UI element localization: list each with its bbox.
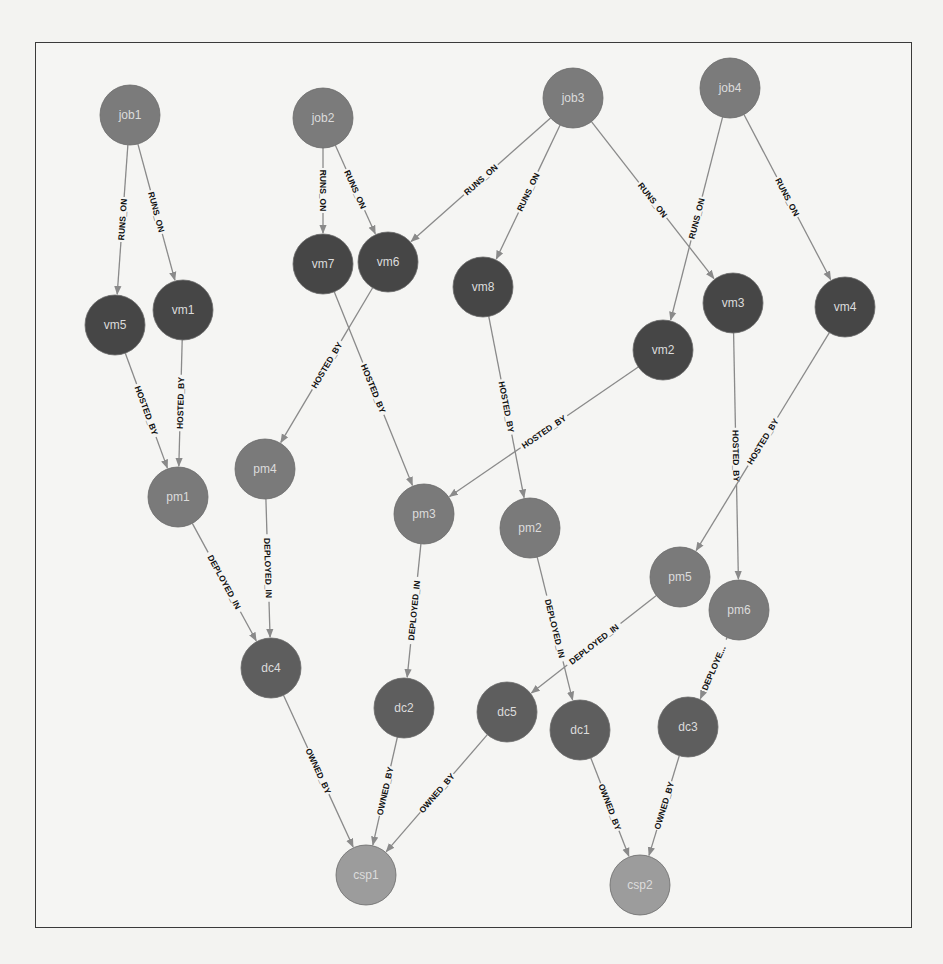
- node-label: vm5: [104, 318, 127, 332]
- edge-job4-vm4[interactable]: RUNS_ON: [744, 115, 831, 280]
- edge-line: [284, 695, 308, 748]
- node-label: dc5: [497, 705, 517, 719]
- edge-line: [672, 756, 680, 782]
- node-label: pm6: [727, 603, 751, 617]
- edge-vm6-pm4[interactable]: HOSTED_BY: [281, 288, 373, 443]
- edge-line: [489, 316, 501, 379]
- arrow-icon: [156, 437, 167, 468]
- node-label: dc2: [394, 701, 414, 715]
- edge-vm4-pm5[interactable]: HOSTED_BY: [696, 333, 829, 551]
- node-label: vm1: [172, 303, 195, 317]
- node-label: pm1: [166, 490, 190, 504]
- node-pm1[interactable]: pm1: [148, 467, 208, 527]
- node-vm4[interactable]: vm4: [815, 277, 875, 337]
- node-csp1[interactable]: csp1: [336, 845, 396, 905]
- arrow-icon: [450, 448, 521, 497]
- node-vm1[interactable]: vm1: [153, 280, 213, 340]
- edge-label: RUNS_ON: [116, 198, 129, 240]
- node-pm2[interactable]: pm2: [500, 498, 560, 558]
- edge-vm1-pm1[interactable]: HOSTED_BY: [175, 340, 186, 466]
- edge-dc1-csp2[interactable]: OWNED_BY: [591, 758, 629, 856]
- arrow-icon: [179, 431, 180, 466]
- node-label: csp2: [627, 878, 653, 892]
- edge-vm8-pm2[interactable]: HOSTED_BY: [489, 316, 524, 497]
- node-label: vm3: [722, 296, 745, 310]
- node-label: pm5: [668, 570, 692, 584]
- edge-label: RUNS_ON: [687, 197, 707, 240]
- arrow-icon: [671, 240, 691, 320]
- edge-vm3-pm6[interactable]: HOSTED_BY: [730, 333, 741, 579]
- edge-dc2-csp1[interactable]: OWNED_BY: [373, 737, 397, 845]
- edge-label: OWNED_BY: [304, 747, 334, 796]
- node-pm5[interactable]: pm5: [650, 547, 710, 607]
- arrow-icon: [411, 195, 464, 242]
- edge-label: DEPLOYED_IN: [406, 580, 422, 641]
- edge-line: [702, 117, 722, 197]
- node-label: dc3: [678, 720, 698, 734]
- edge-label: DEPLOYED_IN: [262, 538, 274, 598]
- node-label: vm4: [834, 300, 857, 314]
- arrow-icon: [407, 644, 410, 677]
- edge-pm3-dc2[interactable]: DEPLOYED_IN: [406, 544, 422, 677]
- edge-line: [621, 595, 657, 623]
- edge-dc3-csp2[interactable]: OWNED_BY: [649, 756, 679, 856]
- edge-line: [591, 122, 638, 183]
- edge-job1-vm1[interactable]: RUNS_ON: [138, 144, 175, 280]
- node-dc3[interactable]: dc3: [658, 697, 718, 757]
- edge-job3-vm8[interactable]: RUNS_ON: [496, 125, 560, 259]
- node-label: csp1: [353, 868, 379, 882]
- node-vm3[interactable]: vm3: [703, 273, 763, 333]
- edge-pm4-dc4[interactable]: DEPLOYED_IN: [262, 499, 274, 637]
- edge-label: RUNS_ON: [773, 176, 801, 217]
- node-dc5[interactable]: dc5: [477, 682, 537, 742]
- edge-vm2-pm3[interactable]: HOSTED_BY: [450, 367, 639, 496]
- node-vm2[interactable]: vm2: [633, 320, 693, 380]
- node-pm4[interactable]: pm4: [235, 439, 295, 499]
- edge-line: [498, 118, 551, 165]
- node-label: pm2: [518, 521, 542, 535]
- node-vm7[interactable]: vm7: [293, 234, 353, 294]
- node-label: vm2: [652, 343, 675, 357]
- edge-line: [125, 353, 136, 384]
- edge-job2-vm7[interactable]: RUNS_ON: [318, 148, 328, 233]
- node-label: vm8: [472, 280, 495, 294]
- node-dc1[interactable]: dc1: [550, 700, 610, 760]
- node-dc4[interactable]: dc4: [241, 638, 301, 698]
- node-vm8[interactable]: vm8: [453, 257, 513, 317]
- edge-line: [341, 288, 373, 341]
- edge-vm5-pm1[interactable]: HOSTED_BY: [125, 353, 167, 468]
- edge-label: DEPLOYED_IN: [567, 622, 620, 667]
- edge-label: HOSTED_BY: [520, 413, 569, 451]
- node-label: dc1: [570, 723, 590, 737]
- edge-label: HOSTED_BY: [175, 377, 186, 430]
- graph-canvas: RUNS_ONRUNS_ONRUNS_ONRUNS_ONRUNS_ONRUNS_…: [0, 0, 943, 964]
- node-pm6[interactable]: pm6: [709, 580, 769, 640]
- node-vm5[interactable]: vm5: [85, 295, 145, 355]
- edge-pm6-dc3[interactable]: DEPLOYE...: [700, 638, 728, 699]
- edge-label: HOSTED_BY: [730, 430, 741, 482]
- edge-job1-vm5[interactable]: RUNS_ON: [116, 145, 129, 294]
- node-dc2[interactable]: dc2: [374, 678, 434, 738]
- node-pm3[interactable]: pm3: [394, 484, 454, 544]
- node-job4[interactable]: job4: [700, 58, 760, 118]
- node-job3[interactable]: job3: [543, 68, 603, 128]
- edge-label: OWNED_BY: [417, 771, 457, 815]
- edge-dc5-csp1[interactable]: OWNED_BY: [386, 735, 487, 852]
- arrow-icon: [240, 612, 256, 641]
- edge-label: HOSTED_BY: [359, 363, 388, 415]
- node-job1[interactable]: job1: [100, 85, 160, 145]
- arrow-icon: [281, 389, 313, 442]
- edge-label: RUNS_ON: [146, 191, 167, 234]
- node-csp2[interactable]: csp2: [610, 855, 670, 915]
- edge-line: [138, 144, 151, 190]
- edge-job2-vm6[interactable]: RUNS_ON: [335, 145, 375, 233]
- edge-label: RUNS_ON: [318, 170, 328, 212]
- edge-pm1-dc4[interactable]: DEPLOYED_IN: [192, 523, 256, 640]
- edge-vm7-pm3[interactable]: HOSTED_BY: [334, 292, 412, 485]
- edge-label: RUNS_ON: [515, 171, 542, 213]
- node-vm6[interactable]: vm6: [358, 232, 418, 292]
- edge-pm2-dc1[interactable]: DEPLOYED_IN: [537, 557, 572, 700]
- edge-dc4-csp1[interactable]: OWNED_BY: [284, 695, 354, 847]
- node-job2[interactable]: job2: [293, 88, 353, 148]
- node-label: job3: [561, 91, 585, 105]
